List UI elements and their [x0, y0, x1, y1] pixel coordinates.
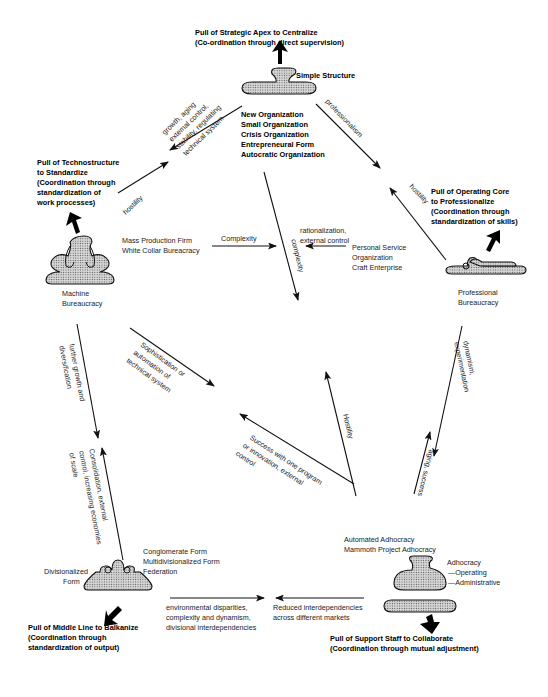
pull-middle-line-line2: (Coordination through — [28, 633, 106, 643]
professional-bureaucracy-label-1: Professional — [458, 288, 498, 298]
divisional-variant-2: Federation — [143, 567, 177, 577]
machine-bureaucracy-label-2: Bureaucracy — [62, 299, 102, 309]
label-external-control-2: external control — [300, 236, 349, 246]
divisionalized-form-shape — [84, 560, 152, 590]
pull-middle-line-line1: Pull of Middle Line to Balkanize — [28, 623, 138, 633]
pull-technostructure-line3: (Coordination through — [37, 178, 115, 188]
pull-operating-core-line1: Pull of Operating Core — [431, 187, 509, 197]
label-reduced-interdependencies: Reduced interdependencies — [273, 603, 363, 613]
divisionalized-form-label-1: Divisionalized — [44, 567, 88, 577]
pull-arrow-support-staff-icon — [420, 614, 440, 634]
professional-bureaucracy-shape — [446, 258, 526, 275]
simple-variant-2: Crisis Organization — [241, 130, 309, 140]
simple-variant-0: New Organization — [241, 110, 303, 120]
label-complexity-dynamism: complexity and dynamism, — [166, 613, 251, 623]
pull-support-staff-line2: (Coordination through mutual adjustment) — [330, 644, 479, 654]
pull-technostructure-line5: work processes) — [37, 198, 95, 208]
pull-strategic-apex-subtitle: (Co-ordination through direct supervisio… — [195, 38, 344, 48]
label-complexity: Complexity — [221, 234, 257, 244]
adhocracy-variant-0: Automated Adhocracy — [344, 535, 414, 545]
adhocracy-variant-1: Mammoth Project Adhocracy — [344, 545, 436, 555]
professional-variant-2: Craft Enterprise — [352, 263, 402, 273]
pull-middle-line-line3: standardization of output) — [28, 643, 119, 653]
machine-variant-1: White Collar Bureacracy — [122, 246, 200, 256]
simple-variant-4: Autocratic Organization — [241, 150, 325, 160]
pull-technostructure-line2: to Standardize — [37, 168, 88, 178]
adhocracy-operating: —Operating — [448, 568, 487, 578]
simple-variant-3: Entrepreneural Form — [241, 140, 314, 150]
professional-variant-1: Organization — [352, 253, 393, 263]
adhocracy-shape — [384, 556, 456, 612]
divisionalized-form-label-2: Form — [63, 577, 80, 587]
pull-arrow-operating-core-icon — [486, 230, 500, 252]
adhocracy-label: Adhocracy — [447, 558, 481, 568]
label-environmental-disparities: environmental disparities, — [166, 603, 248, 613]
machine-bureaucracy-label-1: Machine — [62, 289, 89, 299]
pull-strategic-apex-title: Pull of Strategic Apex to Centralize — [195, 28, 318, 38]
pull-operating-core-line4: standardization of skills) — [431, 217, 518, 227]
simple-variant-1: Small Organization — [241, 120, 308, 130]
pull-operating-core-line2: to Professionalize — [431, 197, 494, 207]
machine-bureaucracy-shape — [46, 236, 114, 284]
label-divisional-interdependencies: divisional interdependencies — [166, 623, 256, 633]
adhocracy-administrative: —Administrative — [448, 578, 500, 588]
simple-structure-label: Simple Structure — [296, 71, 355, 81]
pull-support-staff-line1: Pull of Support Staff to Collaborate — [330, 634, 453, 644]
professional-bureaucracy-label-2: Bureaucracy — [458, 298, 498, 308]
divisional-variant-0: Conglomerate Form — [143, 547, 207, 557]
machine-variant-0: Mass Production Firm — [122, 236, 192, 246]
professional-variant-0: Personal Service — [352, 243, 406, 253]
pull-arrow-technostructure-icon — [66, 212, 82, 234]
pull-technostructure-line1: Pull of Technostructure — [37, 158, 119, 168]
pull-operating-core-line3: (Coordination through — [431, 207, 509, 217]
pull-technostructure-line4: standardization of — [37, 188, 101, 198]
divisional-variant-1: Multidivisionalized Form — [143, 557, 220, 567]
label-across-markets: across different markets — [273, 613, 350, 623]
label-rationalization: rationalization, — [300, 226, 346, 236]
